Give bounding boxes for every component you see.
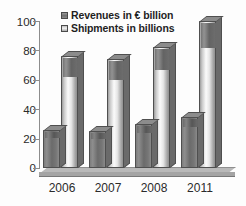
bar-shading-band	[183, 119, 198, 128]
y-tick-label-100: 100	[2, 17, 36, 28]
bar-shading-band	[91, 133, 106, 139]
bar-side-face	[106, 127, 112, 168]
bar-front-face	[135, 124, 152, 168]
x-tick-label-2011: 2011	[177, 182, 223, 195]
bar-group	[89, 21, 135, 168]
bar-group	[181, 21, 227, 168]
x-tick-label-2007: 2007	[85, 182, 131, 195]
legend-swatch-shipments-icon	[61, 25, 68, 32]
bar-side-face	[170, 43, 176, 168]
y-tick-label-80: 80	[2, 46, 36, 57]
y-tick-label-40: 40	[2, 105, 36, 116]
bar-shading-band	[63, 58, 78, 77]
bar-2007-revenues	[89, 131, 106, 168]
chart-floor-front	[39, 172, 235, 177]
legend-label-shipments: Shipments in billions	[71, 23, 175, 34]
bar-side-face	[198, 112, 204, 168]
chart-legend: Revenues in € billion Shipments in billi…	[61, 9, 191, 35]
bar-side-face	[152, 119, 158, 168]
bar-group	[135, 21, 181, 168]
bar-side-face	[124, 55, 130, 168]
bar-side-face	[60, 125, 66, 168]
bar-front-face	[89, 131, 106, 168]
bar-2006-revenues	[43, 130, 60, 168]
bar-shading-band	[109, 61, 124, 79]
y-tick-label-20: 20	[2, 134, 36, 145]
bar-group	[43, 21, 89, 168]
y-tick-label-60: 60	[2, 75, 36, 86]
bar-shading-band	[45, 132, 60, 138]
x-tick-label-2008: 2008	[131, 182, 177, 195]
legend-item-revenues: Revenues in € billion	[61, 9, 191, 21]
legend-swatch-revenues-icon	[61, 12, 68, 19]
bar-shading-band	[155, 49, 170, 69]
bar-2008-revenues	[135, 124, 152, 168]
bar-side-face	[216, 16, 222, 168]
bar-shading-band	[137, 126, 152, 133]
legend-label-revenues: Revenues in € billion	[71, 10, 173, 21]
bar-front-face	[43, 130, 60, 168]
bar-2011-revenues	[181, 117, 198, 168]
plot-area	[39, 21, 235, 168]
y-tick-label-0: 0	[2, 163, 36, 174]
bar-chart: Revenues in € billion Shipments in billi…	[0, 0, 246, 206]
x-tick-label-2006: 2006	[39, 182, 85, 195]
x-axis: 2006 2007 2008 2011	[39, 182, 239, 200]
bar-shading-band	[201, 23, 216, 48]
y-axis: 100 80 60 40 20 0	[0, 0, 36, 206]
legend-item-shipments: Shipments in billions	[61, 22, 191, 34]
bar-front-face	[181, 117, 198, 168]
bar-side-face	[78, 52, 84, 168]
